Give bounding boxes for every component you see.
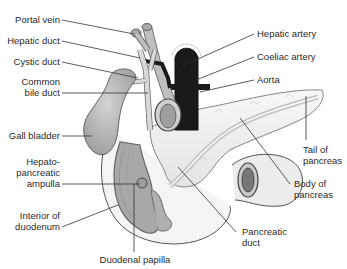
label-common-bile-duct: Common bile duct (0, 76, 60, 98)
label-pancreatic-duct: Pancreatic duct (242, 226, 287, 248)
label-aorta: Aorta (257, 74, 280, 85)
label-interior-of-duodenum: Interior of duodenum (0, 210, 60, 232)
label-body-of-pancreas: Body of pancreas (294, 178, 333, 200)
label-portal-vein: Portal vein (0, 14, 60, 25)
label-tail-of-pancreas: Tail of pancreas (303, 144, 342, 166)
label-hepatic-duct: Hepatic duct (0, 35, 60, 46)
label-cystic-duct: Cystic duct (0, 56, 60, 67)
vessel-cross-section (155, 99, 181, 131)
portal-vein (131, 24, 178, 111)
label-hepatic-artery: Hepatic artery (257, 28, 316, 39)
label-coeliac-artery: Coeliac artery (257, 51, 316, 62)
label-gall-bladder: Gall bladder (0, 130, 60, 141)
anatomy-diagram: Portal vein Hepatic duct Cystic duct Com… (0, 0, 347, 269)
label-duodenal-papilla: Duodenal papilla (98, 254, 172, 265)
ampulla (137, 178, 147, 188)
label-hepatopancreatic-ampulla: Hepato- pancreatic ampulla (0, 156, 60, 189)
